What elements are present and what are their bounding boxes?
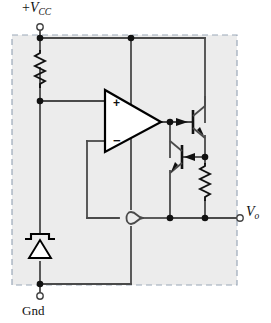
junction-q2-collector [202, 154, 209, 161]
op-amp-plus-input-label: + [113, 96, 120, 110]
junction-gnd [37, 281, 44, 288]
output-label: Vo [246, 204, 259, 221]
circuit-schematic-canvas: + − [0, 0, 271, 323]
ic-boundary-region [12, 35, 237, 285]
junction-output-rail [202, 215, 209, 222]
junction-zener-reference [37, 98, 44, 105]
gnd-terminal [37, 293, 43, 299]
junction-opamp-supply [128, 35, 135, 42]
junction-opamp-output [167, 119, 174, 126]
junction-vcc-top [37, 35, 44, 42]
circuit-figure: + − [0, 0, 271, 323]
junction-output-node [167, 215, 174, 222]
supply-label: +VCC [22, 0, 51, 17]
vcc-terminal [37, 24, 43, 30]
op-amp-minus-input-label: − [113, 133, 121, 148]
ground-label: Gnd [22, 303, 44, 319]
vo-terminal [237, 215, 243, 221]
